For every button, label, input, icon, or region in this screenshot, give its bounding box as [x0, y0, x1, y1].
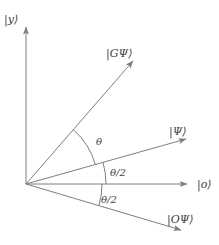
- horizontal-axis-label: |o⟩: [197, 178, 212, 192]
- grover-geometry-figure: |y⟩ |GΨ⟩ |Ψ⟩ |o⟩ |OΨ⟩ θ θ/2 θ/2: [0, 0, 219, 245]
- diagram-canvas: |y⟩ |GΨ⟩ |Ψ⟩ |o⟩ |OΨ⟩ θ θ/2 θ/2: [0, 0, 219, 245]
- y-axis-label: |y⟩: [4, 13, 18, 27]
- theta-half-upper-label: θ/2: [110, 167, 126, 178]
- o-psi-label: |OΨ⟩: [167, 213, 194, 227]
- theta-half-upper-arc: [103, 162, 106, 184]
- psi-label: |Ψ⟩: [169, 125, 187, 139]
- theta-half-lower-label: θ/2: [101, 194, 117, 205]
- theta-arc: [74, 130, 96, 165]
- g-psi-label: |GΨ⟩: [106, 47, 132, 61]
- o-psi-vector: [26, 184, 181, 230]
- g-psi-vector: [26, 61, 133, 184]
- theta-label: θ: [96, 136, 102, 147]
